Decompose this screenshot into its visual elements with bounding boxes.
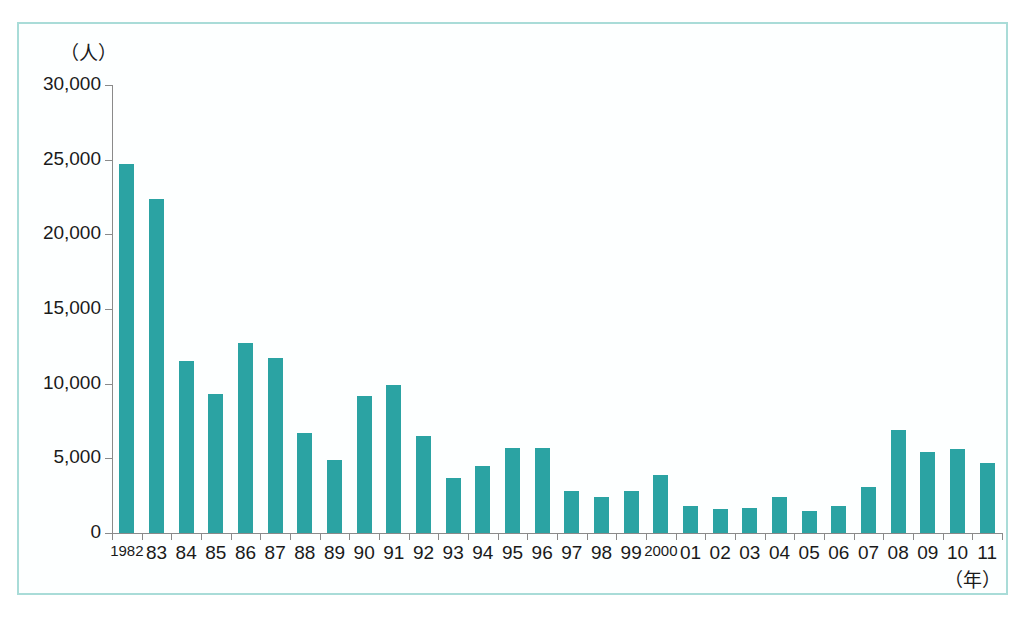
x-axis-tick-label: 99 [621,542,642,564]
x-axis-tick-label: 2000 [644,542,677,559]
y-axis-tick-label: 5,000 [5,446,101,468]
bar [713,509,728,533]
chart-figure: 30,00025,00020,00015,00010,0005,0000 198… [0,0,1027,617]
bar [891,430,906,533]
x-axis-tick-label: 98 [591,542,612,564]
x-axis-tick-mark [587,533,588,540]
bar [208,394,223,533]
x-axis-tick-mark [409,533,410,540]
bar [475,466,490,533]
bar [149,199,164,534]
x-axis-tick-mark [527,533,528,540]
bar [920,452,935,533]
x-axis-tick-mark [883,533,884,540]
x-axis-tick-label: 91 [383,542,404,564]
bar [327,460,342,533]
bar-series [112,85,1002,533]
bar [386,385,401,533]
x-axis-tick-mark [765,533,766,540]
x-axis-tick-mark [438,533,439,540]
bar [505,448,520,533]
x-axis-tick-label: 92 [413,542,434,564]
bar [357,396,372,533]
bar [446,478,461,533]
bar [594,497,609,533]
x-axis-tick-mark [320,533,321,540]
x-axis-tick-mark [705,533,706,540]
x-axis-tick-label: 83 [146,542,167,564]
x-axis-tick-mark [735,533,736,540]
y-axis-tick-label: 25,000 [5,148,101,170]
x-axis-tick-label: 02 [710,542,731,564]
x-axis-tick-label: 85 [205,542,226,564]
x-axis-tick-mark [972,533,973,540]
x-axis-tick-mark [913,533,914,540]
x-axis-tick-mark [290,533,291,540]
x-axis-tick-mark [557,533,558,540]
bar [238,343,253,533]
x-axis-tick-label: 09 [917,542,938,564]
x-axis-tick-label: 05 [799,542,820,564]
x-axis-tick-mark [112,533,113,540]
bar [653,475,668,533]
x-axis-tick-mark [379,533,380,540]
x-axis-tick-mark [676,533,677,540]
x-axis-tick-label: 84 [176,542,197,564]
x-axis-tick-label: 08 [888,542,909,564]
x-axis-tick-mark [1002,533,1003,540]
bar [268,358,283,533]
x-axis-tick-label: 93 [443,542,464,564]
x-axis-tick-mark [171,533,172,540]
x-axis-tick-label: 06 [828,542,849,564]
bar [297,433,312,533]
bar [624,491,639,533]
x-axis-tick-mark [231,533,232,540]
x-axis-tick-label: 94 [472,542,493,564]
x-axis-tick-label: 97 [561,542,582,564]
y-axis-unit-label: （人） [60,38,117,65]
bar [179,361,194,533]
bar [802,511,817,533]
bar [772,497,787,533]
y-axis-tick-label: 0 [5,521,101,543]
x-axis-tick-label: 90 [354,542,375,564]
x-axis-tick-mark [468,533,469,540]
x-axis-tick-label: 01 [680,542,701,564]
x-axis-tick-label: 89 [324,542,345,564]
bar [861,487,876,533]
plot-area: 30,00025,00020,00015,00010,0005,0000 198… [0,0,1027,617]
x-axis-unit-label: （年） [944,565,1001,592]
x-axis-tick-label: 07 [858,542,879,564]
x-axis-tick-label: 87 [265,542,286,564]
x-axis-tick-mark [794,533,795,540]
y-axis-tick-label: 15,000 [5,297,101,319]
bar [535,448,550,533]
x-axis-tick-label: 88 [294,542,315,564]
x-axis-tick-mark [142,533,143,540]
bar [831,506,846,533]
x-axis-tick-label: 03 [739,542,760,564]
x-axis-tick-mark [498,533,499,540]
x-axis-tick-label: 10 [947,542,968,564]
x-axis-tick-mark [201,533,202,540]
x-axis-tick-label: 86 [235,542,256,564]
y-axis-tick-label: 10,000 [5,372,101,394]
bar [119,164,134,533]
x-axis-tick-label: 95 [502,542,523,564]
x-axis-tick-mark [824,533,825,540]
x-axis-tick-mark [349,533,350,540]
bar [683,506,698,533]
bar [416,436,431,533]
x-axis-tick-label: 04 [769,542,790,564]
y-axis-tick-label: 20,000 [5,222,101,244]
x-axis-tick-mark [854,533,855,540]
x-axis-tick-label: 1982 [110,542,143,559]
y-axis-tick-labels: 30,00025,00020,00015,00010,0005,0000 [0,0,101,617]
bar [742,508,757,533]
x-axis-tick-mark [616,533,617,540]
bar [950,449,965,533]
bar [980,463,995,533]
x-axis-tick-mark [646,533,647,540]
x-axis-tick-mark [943,533,944,540]
x-axis-tick-mark [260,533,261,540]
